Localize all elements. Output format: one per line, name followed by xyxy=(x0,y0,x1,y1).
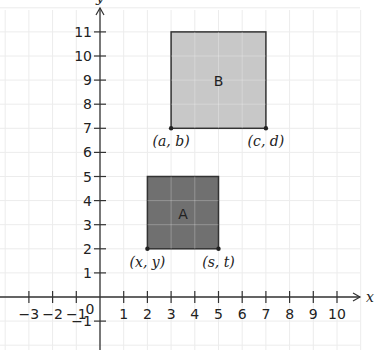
y-tick-label: 3 xyxy=(83,217,92,233)
y-tick-label: 8 xyxy=(83,96,92,112)
x-tick-label: 10 xyxy=(328,306,346,322)
square-label-b: B xyxy=(214,73,224,89)
x-axis-label: x xyxy=(366,289,374,305)
corner-label: (a, b) xyxy=(153,133,190,149)
x-tick-label: −2 xyxy=(42,306,63,322)
y-tick-label: 11 xyxy=(74,24,92,40)
y-tick-label: 6 xyxy=(83,144,92,160)
corner-label: (s, t) xyxy=(202,254,235,270)
y-axis-label: y xyxy=(95,0,105,5)
y-tick-label: 10 xyxy=(74,48,92,64)
corner-point xyxy=(169,126,173,130)
x-tick-label: −3 xyxy=(19,306,40,322)
square-label-a: A xyxy=(178,206,188,222)
y-tick-label: 5 xyxy=(83,169,92,185)
x-tick-label: 6 xyxy=(238,306,247,322)
y-tick-label: 7 xyxy=(83,120,92,136)
coordinate-plane: A(x, y)(s, t)B(a, b)(c, d) xy −3−2−11234… xyxy=(0,0,378,350)
corner-label: (x, y) xyxy=(130,254,166,270)
x-tick-label: 1 xyxy=(119,306,128,322)
squares: A(x, y)(s, t)B(a, b)(c, d) xyxy=(130,32,285,270)
corner-point xyxy=(264,126,268,130)
x-tick-label: 5 xyxy=(214,306,223,322)
x-tick-label: 2 xyxy=(143,306,152,322)
y-tick-label: 9 xyxy=(83,72,92,88)
x-tick-label: 8 xyxy=(285,306,294,322)
corner-point xyxy=(216,247,220,251)
x-tick-label: 4 xyxy=(190,306,199,322)
corner-point xyxy=(145,247,149,251)
y-tick-label: 1 xyxy=(83,265,92,281)
x-tick-label: 3 xyxy=(167,306,176,322)
corner-label: (c, d) xyxy=(248,133,285,149)
x-tick-label: 7 xyxy=(261,306,270,322)
y-tick-label: 2 xyxy=(83,241,92,257)
origin-label: 0 xyxy=(86,301,95,317)
x-tick-label: 9 xyxy=(309,306,318,322)
y-tick-label: 4 xyxy=(83,193,92,209)
